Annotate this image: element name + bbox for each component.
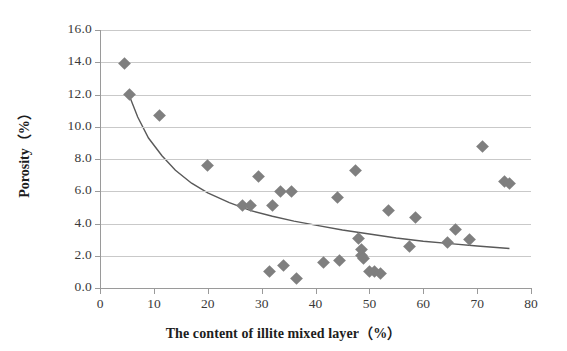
- x-axis-tick: [477, 289, 478, 294]
- y-axis-tick-label: 6.0: [46, 182, 92, 198]
- y-axis-title: Porosity（%）: [13, 67, 33, 237]
- x-axis-tick-label: 30: [242, 296, 282, 312]
- x-axis-tick: [100, 289, 101, 294]
- x-axis-tick-label: 60: [403, 296, 443, 312]
- plot-area: [100, 30, 531, 288]
- y-axis-line: [100, 30, 101, 289]
- x-axis-title: The content of illite mixed layer（%）: [0, 322, 567, 342]
- x-axis-tick-label: 80: [511, 296, 551, 312]
- y-axis-tick: [95, 30, 100, 31]
- gridline: [100, 191, 531, 192]
- y-axis-tick: [95, 62, 100, 63]
- chart-figure: 0.02.04.06.08.010.012.014.016.0 01020304…: [0, 0, 567, 351]
- x-axis-tick: [316, 289, 317, 294]
- gridline: [100, 30, 531, 31]
- y-axis-tick: [95, 95, 100, 96]
- y-axis-tick: [95, 191, 100, 192]
- gridline: [100, 62, 531, 63]
- x-axis-tick: [154, 289, 155, 294]
- x-axis-tick-label: 20: [188, 296, 228, 312]
- x-axis-tick: [531, 289, 532, 294]
- y-axis-tick-label: 4.0: [46, 215, 92, 231]
- gridline: [100, 224, 531, 225]
- x-axis-tick: [208, 289, 209, 294]
- x-axis-tick: [423, 289, 424, 294]
- gridline: [100, 95, 531, 96]
- y-axis-tick: [95, 159, 100, 160]
- x-axis-tick-label: 10: [134, 296, 174, 312]
- y-axis-tick-label: 2.0: [46, 247, 92, 263]
- y-axis-tick-label: 14.0: [46, 53, 92, 69]
- y-axis-tick: [95, 224, 100, 225]
- gridline: [100, 159, 531, 160]
- y-axis-tick-label: 16.0: [46, 21, 92, 37]
- y-axis-tick-label: 10.0: [46, 118, 92, 134]
- x-axis-tick-label: 70: [457, 296, 497, 312]
- gridline: [100, 127, 531, 128]
- y-axis-tick-label: 12.0: [46, 86, 92, 102]
- x-axis-tick-label: 0: [80, 296, 120, 312]
- gridline: [100, 256, 531, 257]
- y-axis-tick-label: 8.0: [46, 150, 92, 166]
- x-axis-tick-label: 50: [349, 296, 389, 312]
- x-axis-tick: [262, 289, 263, 294]
- x-axis-tick: [369, 289, 370, 294]
- y-axis-tick-label: 0.0: [46, 279, 92, 295]
- y-axis-tick: [95, 256, 100, 257]
- y-axis-tick: [95, 127, 100, 128]
- x-axis-tick-label: 40: [296, 296, 336, 312]
